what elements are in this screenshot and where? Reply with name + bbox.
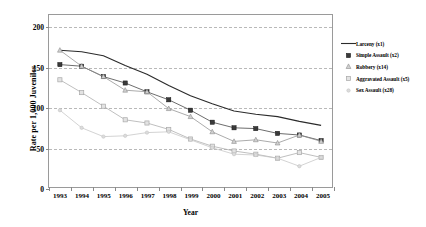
legend-label: Simple Assault (x2) [356,52,399,58]
x-axis-tick-mark [71,187,72,191]
x-axis-tick-mark [202,187,203,191]
x-axis-tick-label: 1998 [163,192,177,200]
x-axis-tick-label: 2000 [206,192,220,200]
data-point-marker [123,81,127,85]
data-point-marker [145,121,149,125]
x-axis-tick-mark [224,187,225,191]
data-point-marker [232,153,235,156]
x-axis-tick-mark [159,187,160,191]
x-axis-tick-mark [312,187,313,191]
plot-area: 050100150200 199319941995199619971998199… [48,14,333,188]
x-axis-tick-label: 1997 [141,192,155,200]
data-point-marker [254,153,257,156]
x-axis-tick-label: 1994 [75,192,89,200]
data-point-marker [124,134,127,137]
legend-item-4[interactable]: Aggravated Assault (x5) [341,73,426,85]
x-axis-tick-mark [246,187,247,191]
series-container [49,15,332,187]
x-axis-tick-mark [115,187,116,191]
series-line [60,50,321,143]
data-point-marker [210,129,215,134]
chart-figure: Rate per 1,000 Juveniles 050100150200 19… [0,0,426,227]
x-axis-tick-label: 2002 [250,192,264,200]
x-axis-tick-label: 2004 [294,192,308,200]
data-point-marker [167,98,171,102]
x-axis-tick-mark [49,187,50,191]
data-point-marker [346,76,350,80]
legend-item-2[interactable]: Simple Assault (x2) [341,50,426,62]
x-axis-tick-mark [181,187,182,191]
data-point-marker [167,130,170,133]
y-axis-tick-label: 200 [33,23,44,32]
data-point-marker [346,53,350,57]
x-axis-tick-mark [290,187,291,191]
data-point-marker [275,131,279,135]
series-line [60,80,321,158]
data-point-marker [166,106,171,111]
legend-label: Sex Assault (x28) [356,87,394,93]
data-point-marker [211,146,214,149]
data-point-marker [58,63,62,67]
data-point-marker [276,157,279,160]
data-point-marker [298,165,301,168]
legend-item-3[interactable]: Robbery (x14) [341,61,426,73]
data-point-marker [347,88,350,91]
data-point-marker [188,108,192,112]
legend: Larceny (x1)Simple Assault (x2)Robbery (… [341,38,426,96]
legend-label: Robbery (x14) [356,64,388,70]
x-axis-tick-label: 2003 [272,192,286,200]
data-point-marker [58,78,62,82]
legend-marker-icon [341,38,356,49]
legend-marker-icon [341,85,356,96]
x-axis-tick-label: 2005 [316,192,330,200]
x-axis-tick-mark [137,187,138,191]
y-axis-tick-label: 0 [40,185,44,194]
legend-label: Aggravated Assault (x5) [356,76,409,82]
legend-item-5[interactable]: Sex Assault (x28) [341,84,426,96]
x-axis-tick-label: 1995 [97,192,111,200]
data-point-marker [254,127,258,131]
x-axis-title: Year [48,208,333,217]
x-axis-tick-mark [334,187,335,191]
x-axis-tick-mark [268,187,269,191]
data-point-marker [319,156,322,159]
y-axis-tick-label: 150 [33,63,44,72]
data-point-marker [145,131,148,134]
x-axis-tick-label: 1993 [53,192,67,200]
data-point-marker [253,137,258,142]
x-axis-tick-label: 1996 [119,192,133,200]
x-axis-tick-label: 2001 [228,192,242,200]
legend-marker-icon [341,50,356,61]
data-point-marker [58,109,61,112]
legend-marker-icon [341,61,356,72]
legend-marker-icon [341,73,356,84]
data-point-marker [101,104,105,108]
data-point-marker [346,64,351,69]
legend-label: Larceny (x1) [356,41,384,47]
data-point-marker [80,91,84,95]
data-point-marker [123,118,127,122]
series-4 [58,78,323,161]
series-line [60,65,321,141]
data-point-marker [210,120,214,124]
data-point-marker [232,126,236,130]
y-axis-tick-label: 50 [37,144,45,153]
legend-item-1[interactable]: Larceny (x1) [341,38,426,50]
data-point-marker [189,138,192,141]
data-point-marker [80,126,83,129]
x-axis-tick-mark [93,187,94,191]
x-axis-tick-label: 1999 [185,192,199,200]
data-point-marker [102,135,105,138]
y-axis-tick-label: 100 [33,104,44,113]
data-point-marker [123,88,128,93]
data-point-marker [297,151,301,155]
